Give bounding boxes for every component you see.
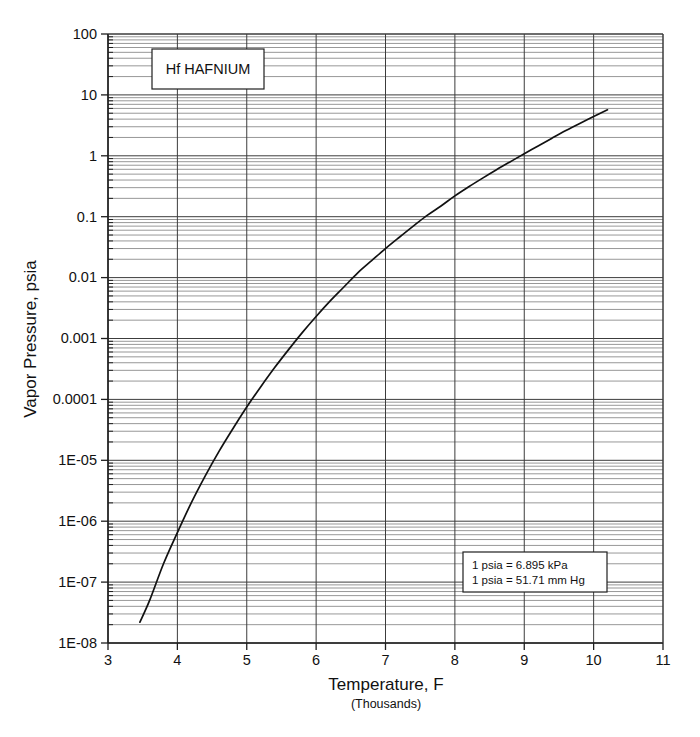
x-tick-label: 11	[655, 652, 670, 668]
y-tick-label: 10	[81, 87, 97, 103]
vapor-pressure-chart: 1001010.10.010.0010.00011E-051E-061E-071…	[0, 0, 700, 737]
x-tick-label: 8	[451, 652, 459, 668]
x-tick-label: 7	[381, 652, 389, 668]
x-axis-tick-labels: 34567891011	[104, 652, 671, 668]
y-tick-label: 0.1	[77, 209, 97, 225]
y-tick-label: 100	[73, 26, 97, 42]
x-tick-label: 9	[520, 652, 528, 668]
y-tick-label: 1E-07	[58, 574, 97, 590]
y-tick-label: 1E-06	[58, 513, 97, 529]
note-box-line-2: 1 psia = 51.71 mm Hg	[472, 574, 585, 586]
note-box	[463, 552, 607, 592]
y-tick-label: 1E-05	[58, 452, 97, 468]
x-tick-label: 4	[173, 652, 181, 668]
x-tick-label: 6	[312, 652, 320, 668]
y-axis-title: Vapor Pressure, psia	[21, 260, 40, 418]
note-box-line-1: 1 psia = 6.895 kPa	[472, 559, 568, 571]
y-tick-label: 0.001	[61, 330, 97, 346]
chart-canvas: 1001010.10.010.0010.00011E-051E-061E-071…	[0, 0, 700, 737]
y-tick-label: 0.0001	[53, 391, 97, 407]
y-tick-label: 1E-08	[58, 635, 97, 651]
x-tick-label: 3	[104, 652, 112, 668]
x-tick-label: 5	[243, 652, 251, 668]
x-tick-label: 10	[586, 652, 602, 668]
title-box-label: Hf HAFNIUM	[166, 61, 251, 77]
y-tick-label: 1	[89, 148, 97, 164]
x-axis-subtitle: (Thousands)	[351, 697, 421, 711]
x-axis-title: Temperature, F	[328, 675, 443, 694]
y-tick-label: 0.01	[69, 269, 97, 285]
y-axis-tick-labels: 1001010.10.010.0010.00011E-051E-061E-071…	[53, 26, 97, 651]
